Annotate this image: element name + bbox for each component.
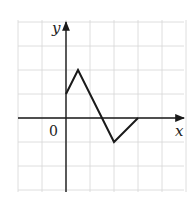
function-graph: y x 0 — [0, 0, 194, 197]
y-axis-label: y — [51, 19, 61, 37]
function-curve — [66, 70, 138, 142]
grid — [18, 20, 186, 192]
x-axis-label: x — [175, 122, 184, 140]
origin-label: 0 — [49, 123, 58, 139]
